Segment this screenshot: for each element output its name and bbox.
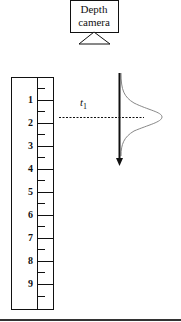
camera-label-line1: Depth [81,3,108,16]
camera-stand-icon [79,32,110,44]
ruler-label-8: 8 [19,256,33,266]
ruler-label-5: 5 [19,187,33,197]
camera-label: Depth camera [70,0,118,32]
ruler-label-3: 3 [19,141,33,151]
ruler-label-9: 9 [19,279,33,289]
gaussian-curve [121,73,162,156]
ruler-label-6: 6 [19,210,33,220]
diagram-canvas [0,0,181,322]
arrow-head-icon [116,158,123,166]
ruler-label-1: 1 [19,95,33,105]
ruler-label-4: 4 [19,164,33,174]
ruler-label-2: 2 [19,118,33,128]
camera-label-line2: camera [78,16,110,29]
ruler-label-7: 7 [19,233,33,243]
time-label: t1 [80,96,87,111]
